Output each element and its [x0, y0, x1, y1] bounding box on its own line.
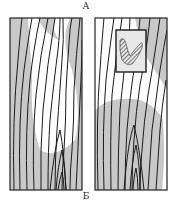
inset-box	[116, 30, 146, 72]
panel-left	[10, 18, 82, 190]
figure-label-bottom: Б	[76, 191, 96, 200]
diagram-canvas	[0, 0, 177, 200]
